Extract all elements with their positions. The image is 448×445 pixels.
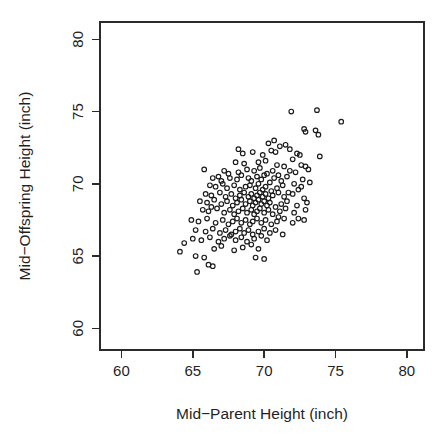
x-axis-title: Mid−Parent Height (inch) [176, 405, 348, 422]
x-tick-label-65: 65 [184, 362, 201, 379]
y-tick-label-75: 75 [69, 103, 86, 120]
y-tick-label-80: 80 [69, 31, 86, 48]
scatter-plot-figure: 6065707580 6065707580 Mid−Parent Height … [0, 0, 448, 445]
x-tick-label-70: 70 [256, 362, 273, 379]
y-tick-label-60: 60 [69, 320, 86, 337]
x-tick-label-60: 60 [113, 362, 130, 379]
x-tick-label-80: 80 [399, 362, 416, 379]
y-tick-label-65: 65 [69, 248, 86, 265]
x-tick-label-75: 75 [327, 362, 344, 379]
plot-canvas: 6065707580 6065707580 Mid−Parent Height … [0, 0, 448, 445]
y-axis-title: Mid−Offspring Height (inch) [16, 92, 33, 281]
y-tick-label-70: 70 [69, 175, 86, 192]
